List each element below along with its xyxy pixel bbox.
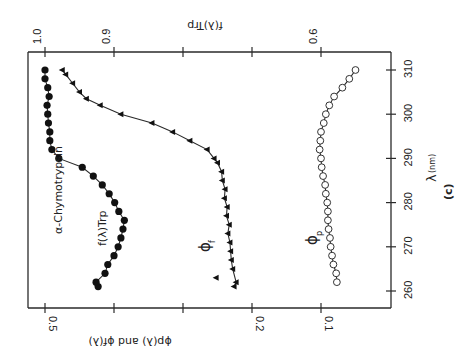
data-point [92, 279, 99, 286]
data-point [318, 128, 325, 135]
wavelength-axis-title: λ (nm) [424, 154, 439, 182]
svg-text:p: p [315, 231, 324, 236]
data-point [214, 160, 220, 166]
phi-f-label: ϕ f [196, 240, 217, 252]
data-point [324, 199, 331, 206]
data-point [318, 155, 325, 162]
data-point [76, 89, 82, 95]
wavelength-tick-label: 260 [402, 281, 414, 299]
data-point [221, 195, 227, 201]
data-point [97, 102, 103, 108]
data-point [46, 93, 53, 100]
svg-text:f: f [208, 240, 217, 243]
data-point [322, 190, 329, 197]
data-point [121, 217, 128, 224]
data-point [111, 199, 118, 206]
data-point [104, 261, 111, 268]
data-point [322, 182, 329, 189]
data-point [333, 270, 340, 277]
data-point [317, 137, 324, 144]
data-point [45, 119, 52, 126]
data-point [325, 226, 332, 233]
data-point [224, 231, 230, 237]
data-point [331, 93, 338, 100]
series-line [62, 70, 236, 287]
data-point [44, 84, 51, 91]
data-point [204, 147, 210, 153]
data-point [346, 75, 353, 82]
data-point [326, 102, 333, 109]
f-trp-tick-label: 0.6 [307, 29, 319, 44]
phi-tick-label: 0.5 [47, 316, 59, 331]
data-point [115, 208, 122, 215]
data-point [148, 120, 154, 126]
data-point [41, 75, 48, 82]
data-point [79, 164, 86, 171]
phi-tick-label: 0.1 [323, 316, 335, 331]
data-point [330, 261, 337, 268]
data-point [327, 243, 334, 250]
data-point [325, 208, 332, 215]
data-point [99, 181, 106, 188]
data-point [90, 172, 97, 179]
wavelength-tick-label: 290 [402, 148, 414, 166]
series-phi-p [316, 67, 359, 286]
wavelength-tick-label: 310 [402, 60, 414, 78]
data-point [329, 252, 336, 259]
series-phi-f [59, 67, 239, 290]
data-point [44, 111, 51, 118]
right-axis-title: f(λ)Trp [187, 19, 223, 32]
panel-label: (c) [442, 183, 455, 200]
data-point [223, 213, 229, 219]
data-point [59, 67, 65, 73]
data-point [186, 138, 192, 144]
left-axis-title: ϕp(λ) and ϕf(λ) [88, 335, 171, 348]
f-curve-label: f(λ)Trp [96, 210, 109, 246]
data-point [327, 235, 334, 242]
data-point [231, 284, 237, 290]
data-point [318, 164, 325, 171]
protein-label: α-Chymotrypsin [52, 146, 65, 234]
phi-p-label: ϕ p [303, 231, 324, 245]
data-point [62, 71, 68, 77]
phi-tick-label: 0.2 [254, 316, 266, 331]
data-point [69, 80, 75, 86]
data-point [119, 226, 126, 233]
data-point [117, 111, 123, 117]
wavelength-tick-label: 300 [402, 104, 414, 122]
data-point [322, 111, 329, 118]
data-point [320, 173, 327, 180]
data-point [325, 217, 332, 224]
data-point [169, 129, 175, 135]
data-point [320, 120, 327, 127]
wavelength-tick-label: 280 [402, 192, 414, 210]
data-point [117, 234, 124, 241]
svg-text:λ: λ [424, 174, 439, 182]
data-point [110, 252, 117, 259]
chart: 2602702802903003100.50.20.11.00.90.6 α-C… [0, 0, 466, 364]
data-point [339, 84, 346, 91]
data-point [316, 146, 323, 153]
svg-text:(nm): (nm) [428, 154, 437, 173]
data-point [106, 190, 113, 197]
data-point [43, 102, 50, 109]
data-point [211, 155, 217, 161]
data-point [46, 128, 53, 135]
data-point [333, 279, 340, 286]
data-point [115, 243, 122, 250]
data-point [41, 66, 48, 73]
f-trp-tick-label: 1.0 [31, 29, 43, 44]
data-point [213, 275, 219, 281]
wavelength-tick-label: 270 [402, 236, 414, 254]
f-trp-tick-label: 0.9 [100, 29, 112, 44]
data-point [46, 137, 53, 144]
data-point [101, 270, 108, 277]
data-point [352, 67, 359, 74]
